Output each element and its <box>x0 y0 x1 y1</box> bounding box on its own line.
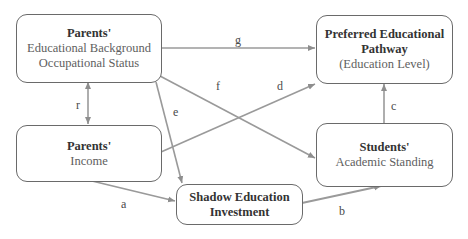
edge-a <box>92 181 175 201</box>
edge-label-d: d <box>277 80 283 92</box>
path-diagram: Parents' Educational Background Occupati… <box>0 0 468 239</box>
node-title-line: Preferred Educational <box>325 27 444 42</box>
node-title-line: Pathway <box>361 42 408 57</box>
node-title: Students' <box>359 140 409 155</box>
node-title: Parents' <box>67 26 111 41</box>
edge-f <box>160 76 315 158</box>
node-line: Educational Background <box>27 41 151 56</box>
node-shadow-education: Shadow Education Investment <box>176 184 303 225</box>
node-line: Income <box>70 154 107 169</box>
edge-label-f: f <box>216 80 220 92</box>
edge-label-b: b <box>339 205 345 217</box>
edge-label-e: e <box>173 106 178 118</box>
node-students-standing: Students' Academic Standing <box>316 123 453 187</box>
node-title-line: Investment <box>210 205 270 220</box>
node-title: Parents' <box>67 139 111 154</box>
node-parents-income: Parents' Income <box>16 125 162 182</box>
edge-label-g: g <box>235 34 241 46</box>
node-parents-background: Parents' Educational Background Occupati… <box>16 14 162 83</box>
edge-b <box>302 186 381 203</box>
node-preferred-pathway: Preferred Educational Pathway (Education… <box>316 15 453 84</box>
edge-d <box>161 84 315 152</box>
node-line: Academic Standing <box>335 155 433 170</box>
edge-label-a: a <box>121 198 126 210</box>
edge-label-r: r <box>76 99 80 111</box>
node-line: (Education Level) <box>339 57 430 72</box>
edge-label-c: c <box>391 100 396 112</box>
node-line: Occupational Status <box>39 56 139 71</box>
node-title-line: Shadow Education <box>189 190 289 205</box>
